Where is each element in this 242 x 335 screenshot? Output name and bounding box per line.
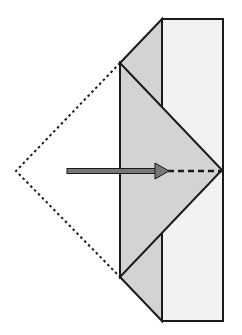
arrow-shaft xyxy=(67,169,157,174)
folding-diagram xyxy=(0,0,242,335)
